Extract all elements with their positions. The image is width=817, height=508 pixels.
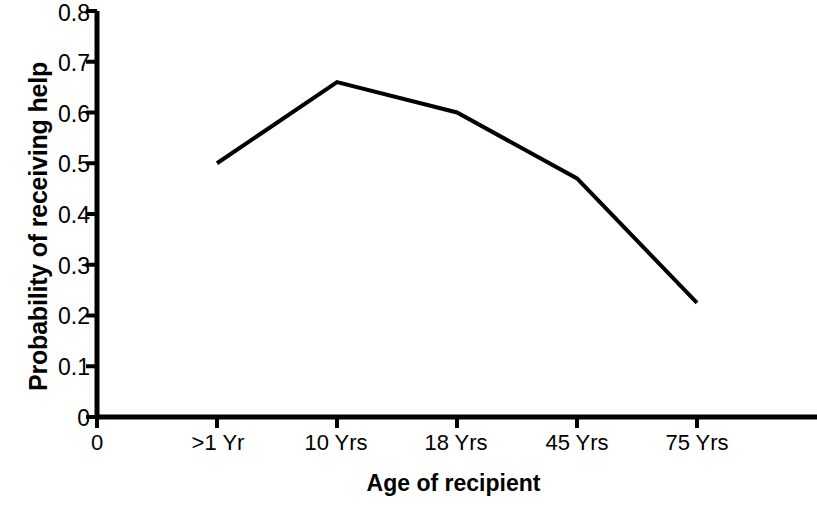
plot-area: [0, 0, 817, 508]
data-series-line: [217, 82, 697, 303]
chart-container: Probability of receiving help 0.8 0.7 0.…: [0, 0, 817, 508]
